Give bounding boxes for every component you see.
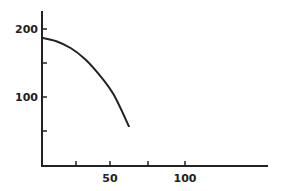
y-tick-label-100: 100 xyxy=(15,91,38,104)
x-tick-label-100: 100 xyxy=(174,172,197,185)
data-curve xyxy=(42,38,129,127)
chart: 200 100 50 100 xyxy=(0,0,281,191)
y-tick-label-200: 200 xyxy=(15,23,38,36)
x-tick-label-50: 50 xyxy=(102,172,118,185)
